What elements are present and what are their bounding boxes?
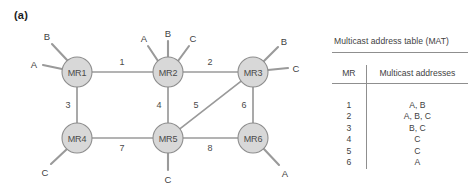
mat-cell-addresses: A, B, C bbox=[366, 111, 468, 123]
mat-cell-addresses: C bbox=[366, 134, 468, 146]
link-label-3: 3 bbox=[65, 100, 70, 110]
host-stub-mr3-b bbox=[263, 47, 278, 62]
mat-row: 4C bbox=[332, 134, 468, 146]
mat-row: 5C bbox=[332, 146, 468, 158]
mat-cell-mr: 3 bbox=[332, 123, 366, 135]
host-label-mr5-c: C bbox=[165, 174, 172, 185]
link-label-4: 4 bbox=[156, 100, 161, 110]
host-label-mr1-a: A bbox=[31, 59, 38, 70]
mat-table-head: MR Multicast addresses bbox=[332, 53, 468, 96]
mat-cell-mr: 2 bbox=[332, 111, 366, 123]
link-label-1: 1 bbox=[119, 57, 124, 67]
router-label-mr4: MR4 bbox=[68, 134, 87, 144]
router-node-mr6[interactable]: MR6 bbox=[238, 123, 268, 153]
figure-root: (a) MR1MR2MR3MR4MR5MR6 12345678 ABABCBCC… bbox=[0, 0, 476, 193]
host-stub-mr1-a bbox=[43, 65, 62, 69]
host-stub-mr2-c bbox=[178, 46, 189, 61]
host-label-mr3-b: B bbox=[281, 36, 287, 47]
mat-cell-addresses: A, B bbox=[366, 96, 468, 112]
mat-row: 6A bbox=[332, 157, 468, 169]
mat-table-body: 1A, B2A, B, C3B, C4C5C6A bbox=[332, 96, 468, 169]
link-label-5: 5 bbox=[193, 100, 198, 110]
link-label-8: 8 bbox=[207, 143, 212, 153]
mat-cell-mr: 4 bbox=[332, 134, 366, 146]
mat-row: 1A, B bbox=[332, 96, 468, 112]
host-labels: ABABCBCCCA bbox=[31, 28, 300, 185]
router-label-mr5: MR5 bbox=[159, 134, 178, 144]
mat-header-row: MR Multicast addresses bbox=[332, 65, 468, 84]
mat-cell-mr: 1 bbox=[332, 96, 366, 112]
link-mr5-mr3 bbox=[180, 81, 241, 129]
link-label-6: 6 bbox=[241, 100, 246, 110]
host-label-mr4-c: C bbox=[42, 167, 49, 178]
mat-row: 2A, B, C bbox=[332, 111, 468, 123]
host-label-mr6-a: A bbox=[282, 168, 289, 179]
host-stub-mr1-b bbox=[52, 44, 67, 60]
mat-col-header-mr: MR bbox=[332, 65, 366, 84]
router-label-mr1: MR1 bbox=[68, 68, 87, 78]
host-stub-mr2-a bbox=[148, 46, 158, 61]
mat-panel: Multicast address table (MAT) MR Multica… bbox=[332, 36, 470, 169]
router-label-mr2: MR2 bbox=[159, 68, 178, 78]
router-node-mr4[interactable]: MR4 bbox=[62, 123, 92, 153]
mat-title: Multicast address table (MAT) bbox=[334, 36, 470, 46]
network-diagram: MR1MR2MR3MR4MR5MR6 12345678 ABABCBCCCA bbox=[0, 0, 320, 193]
mat-col-header-addresses: Multicast addresses bbox=[366, 65, 468, 84]
router-node-mr3[interactable]: MR3 bbox=[238, 57, 268, 87]
router-node-mr1[interactable]: MR1 bbox=[62, 57, 92, 87]
host-label-mr1-b: B bbox=[44, 31, 50, 42]
mat-cell-mr: 6 bbox=[332, 157, 366, 169]
mat-rule-mid bbox=[332, 84, 468, 96]
host-label-mr3-c: C bbox=[293, 63, 300, 74]
router-label-mr3: MR3 bbox=[244, 68, 263, 78]
host-label-mr2-a: A bbox=[141, 33, 148, 44]
mat-row: 3B, C bbox=[332, 123, 468, 135]
host-stub-mr6-a bbox=[263, 148, 279, 165]
host-label-mr2-c: C bbox=[190, 33, 197, 44]
mat-cell-mr: 5 bbox=[332, 146, 366, 158]
mat-cell-addresses: C bbox=[366, 146, 468, 158]
host-stub-mr4-c bbox=[51, 149, 67, 164]
mat-table: MR Multicast addresses 1A, B2A, B, C3B, … bbox=[332, 52, 468, 169]
router-label-mr6: MR6 bbox=[244, 134, 263, 144]
router-node-mr5[interactable]: MR5 bbox=[153, 123, 183, 153]
host-label-mr2-b: B bbox=[165, 28, 171, 39]
link-label-2: 2 bbox=[207, 57, 212, 67]
mat-rule-top bbox=[332, 53, 468, 65]
mat-cell-addresses: A bbox=[366, 157, 468, 169]
host-stub-mr3-c bbox=[268, 68, 288, 70]
link-label-7: 7 bbox=[119, 143, 124, 153]
mat-cell-addresses: B, C bbox=[366, 123, 468, 135]
router-node-mr2[interactable]: MR2 bbox=[153, 57, 183, 87]
